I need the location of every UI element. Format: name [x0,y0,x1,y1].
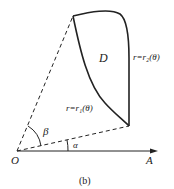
inner-curve-label: r=r₁(θ) [66,103,93,113]
beta-label: β [42,125,49,137]
origin-label: O [11,154,19,166]
polar-region-diagram: D r=r₂(θ) r=r₁(θ) β α O A (b) [0,0,174,189]
axis-label: A [145,154,153,166]
arc-alpha [67,140,68,151]
arrowhead-icon [150,149,158,154]
alpha-label: α [73,140,78,150]
caption: (b) [79,175,91,187]
outer-curve-label: r=r₂(θ) [133,52,160,62]
polar-axis [17,149,158,154]
region-label: D [98,51,108,65]
arc-beta [28,126,41,146]
